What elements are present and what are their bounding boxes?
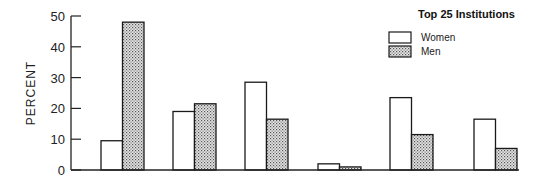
bar-men xyxy=(496,148,518,170)
legend: Top 25 Institutions Women Men xyxy=(389,8,515,57)
bar-men xyxy=(195,104,217,170)
y-axis: 01020304050 xyxy=(51,9,81,178)
legend-label-men: Men xyxy=(421,46,440,57)
bar-women xyxy=(245,82,267,170)
legend-label-women: Women xyxy=(421,32,455,43)
y-tick-label: 10 xyxy=(51,132,65,147)
y-tick-label: 30 xyxy=(51,71,65,86)
bar-women xyxy=(101,141,123,170)
bars xyxy=(101,22,517,170)
legend-title: Top 25 Institutions xyxy=(418,8,515,20)
bar-chart: 01020304050 PERCENT Top 25 Institutions … xyxy=(0,0,542,188)
bar-men xyxy=(123,22,145,170)
y-tick-label: 50 xyxy=(51,9,65,24)
bar-women xyxy=(474,119,496,170)
y-tick-label: 0 xyxy=(58,163,65,178)
bar-men xyxy=(412,135,434,170)
bar-women xyxy=(390,98,412,170)
legend-swatch-women xyxy=(389,32,411,43)
legend-swatch-men xyxy=(389,46,411,57)
bar-men xyxy=(267,119,289,170)
bar-women xyxy=(173,111,195,170)
y-axis-label: PERCENT xyxy=(24,61,38,125)
bar-women xyxy=(318,164,340,170)
y-tick-label: 40 xyxy=(51,40,65,55)
y-tick-label: 20 xyxy=(51,101,65,116)
